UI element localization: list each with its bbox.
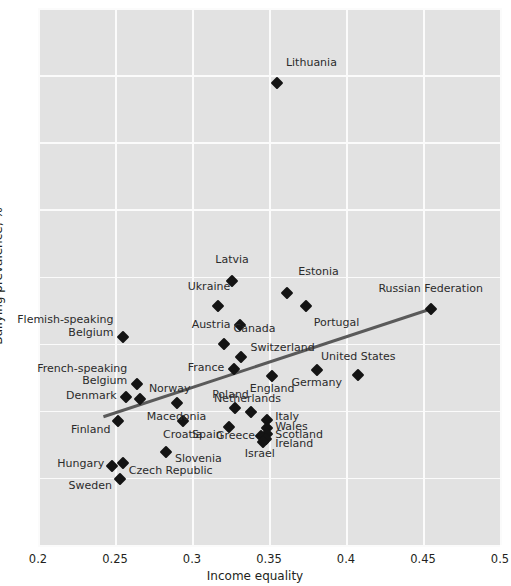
data-point-label: Canada (234, 323, 276, 336)
data-point-label: Denmark (66, 390, 117, 403)
x-axis-label: Income equality (207, 569, 303, 583)
data-point-label: Germany (291, 376, 342, 389)
data-point-label: Flemish-speaking Belgium (17, 314, 113, 339)
x-tick-label: 0.3 (183, 552, 201, 566)
data-point-label: Ukraine (188, 281, 230, 294)
data-point-label: Austria (192, 319, 231, 332)
y-axis-label: Bullying prevalence, % (0, 207, 5, 344)
data-point-label: Czech Republic (129, 465, 213, 478)
chart-figure: Bullying prevalence, % Income equality L… (0, 0, 511, 586)
data-point-label: France (188, 362, 225, 375)
x-tick-label: 0.5 (491, 552, 509, 566)
data-point-label: French-speaking Belgium (37, 362, 127, 387)
x-tick-label: 0.4 (337, 552, 355, 566)
data-point-label: Hungary (57, 458, 104, 471)
data-point-label: Latvia (215, 254, 249, 267)
data-point-label: Macedonia (147, 411, 207, 424)
data-point-label: Israel (245, 447, 275, 460)
data-point-label: Sweden (68, 480, 111, 493)
gridline-vertical (500, 8, 502, 545)
data-point-label: Finland (71, 423, 110, 436)
x-tick-label: 0.25 (102, 552, 128, 566)
x-tick-label: 0.35 (256, 552, 282, 566)
data-point-label: Portugal (314, 317, 360, 330)
data-point-label: Norway (149, 383, 191, 396)
data-point-label: Lithuania (286, 57, 337, 70)
x-tick-label: 0.45 (410, 552, 436, 566)
x-tick-label: 0.2 (29, 552, 47, 566)
data-point-label: Estonia (298, 266, 339, 279)
gridline-horizontal (38, 545, 500, 547)
data-point-label: United States (321, 351, 396, 364)
data-point-label: Ireland (275, 438, 313, 451)
data-point-label: Russian Federation (378, 282, 482, 295)
plot-area: LithuaniaLatviaEstoniaPortugalRussian Fe… (38, 8, 500, 545)
data-point-label: Netherlands (214, 392, 281, 405)
data-point-label: Switzerland (251, 341, 315, 354)
data-point-label: Greece (216, 430, 255, 443)
